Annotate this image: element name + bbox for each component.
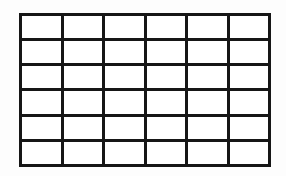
grid-cell (228, 15, 270, 40)
grid-cell (228, 115, 270, 140)
grid-cell (228, 40, 270, 65)
grid-cell (104, 15, 146, 40)
grid-cell (228, 65, 270, 90)
grid-cell (104, 140, 146, 165)
grid-cell (62, 140, 104, 165)
grid-row (21, 140, 270, 165)
grid-row (21, 15, 270, 40)
grid-cell (187, 115, 229, 140)
grid-cell (187, 90, 229, 115)
grid-cell (62, 65, 104, 90)
grid-cell (104, 115, 146, 140)
grid-cell (104, 65, 146, 90)
grid-cell (104, 90, 146, 115)
grid-cell (21, 15, 63, 40)
figure-canvas (0, 0, 286, 176)
grid-cell (187, 15, 229, 40)
grid-cell (62, 15, 104, 40)
grid-cell (145, 140, 187, 165)
grid-cell (228, 90, 270, 115)
grid-table (19, 13, 271, 167)
grid-cell (187, 65, 229, 90)
grid-cell (145, 65, 187, 90)
grid-cell (62, 40, 104, 65)
grid-cell (21, 90, 63, 115)
grid-cell (21, 40, 63, 65)
grid-row (21, 90, 270, 115)
grid-cell (145, 15, 187, 40)
grid-cell (21, 140, 63, 165)
grid-cell (62, 90, 104, 115)
grid-row (21, 65, 270, 90)
grid-row (21, 115, 270, 140)
grid-cell (228, 140, 270, 165)
grid-cell (145, 40, 187, 65)
grid-cell (187, 140, 229, 165)
grid-cell (104, 40, 146, 65)
grid-cell (145, 115, 187, 140)
grid-body (21, 15, 270, 166)
grid-cell (187, 40, 229, 65)
grid-row (21, 40, 270, 65)
grid-cell (21, 65, 63, 90)
grid-cell (21, 115, 63, 140)
grid-cell (62, 115, 104, 140)
grid-cell (145, 90, 187, 115)
